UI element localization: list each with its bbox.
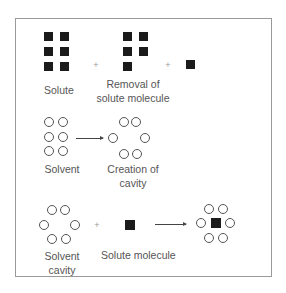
arrow-right-icon — [155, 224, 186, 225]
solvent-circle — [58, 117, 68, 127]
solvent-circle — [119, 117, 129, 127]
solvent-circle — [119, 149, 129, 159]
label-cavity-line2: cavity — [49, 263, 76, 277]
plus-operator: + — [94, 221, 99, 230]
label-creation-line1: Creation of — [107, 162, 158, 176]
removed-solute-molecule — [186, 60, 195, 69]
solvent-circle — [47, 234, 57, 244]
solvent-circle — [225, 218, 235, 228]
solute-square — [60, 47, 69, 56]
solute-square — [44, 62, 53, 71]
solute-square — [44, 47, 53, 56]
label-removal-line2: solute molecule — [97, 91, 170, 105]
solvent-circle — [58, 146, 68, 156]
solute-square — [123, 62, 132, 71]
solute-square — [44, 32, 53, 41]
solvent-circle — [131, 117, 141, 127]
solvent-circle — [140, 133, 150, 143]
solvated-solute — [211, 218, 221, 228]
label-solute: Solute — [44, 83, 74, 97]
solvent-circle — [204, 233, 214, 243]
solvent-circle — [44, 117, 54, 127]
solvent-circle — [58, 132, 68, 142]
label-cavity-line1: Solvent — [44, 249, 79, 263]
arrow-right-icon — [76, 138, 103, 139]
solute-square — [123, 32, 132, 41]
solvent-circle — [196, 218, 206, 228]
plus-operator: + — [93, 61, 98, 70]
solvent-circle — [204, 204, 214, 214]
solvent-circle — [44, 132, 54, 142]
solvent-circle — [61, 234, 71, 244]
solvent-circle — [108, 133, 118, 143]
solvent-circle — [47, 205, 57, 215]
label-solvent: Solvent — [44, 162, 79, 176]
solute-square — [123, 47, 132, 56]
solvent-circle — [218, 233, 228, 243]
solvent-circle — [60, 205, 70, 215]
solvent-circle — [132, 149, 142, 159]
solute-square — [139, 32, 148, 41]
solvent-circle — [218, 204, 228, 214]
solute-square — [139, 47, 148, 56]
plus-operator: + — [165, 61, 170, 70]
solvent-circle — [39, 220, 49, 230]
label-removal-line1: Removal of — [106, 77, 159, 91]
label-solute-molecule: Solute molecule — [101, 248, 176, 262]
label-creation-line2: cavity — [120, 176, 147, 190]
solute-square — [60, 62, 69, 71]
solute-molecule — [125, 220, 135, 230]
solute-square — [60, 32, 69, 41]
solvent-circle — [70, 220, 80, 230]
solvent-circle — [44, 146, 54, 156]
